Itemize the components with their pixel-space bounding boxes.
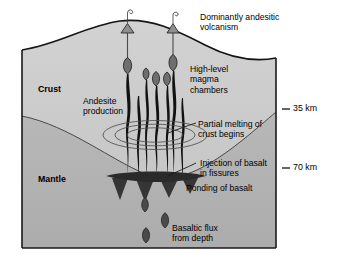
- smoke-plume-icon: [173, 12, 178, 16]
- label-partial-melting: Partial melting of crust begins: [198, 119, 310, 140]
- label-dominantly-andesitic-volcanism: Dominantly andesitic volcanism: [200, 12, 320, 33]
- figure-canvas: Dominantly andesitic volcanism High-leve…: [0, 0, 337, 265]
- depth-label-35km: 35 km: [293, 103, 317, 113]
- label-andesite-production: Andesite production: [83, 96, 153, 117]
- smoke-plume-icon: [128, 10, 133, 14]
- label-basaltic-flux: Basaltic flux from depth: [172, 223, 252, 244]
- label-ponding-of-basalt: Ponding of basalt: [186, 183, 296, 193]
- label-crust: Crust: [38, 84, 61, 94]
- depth-label-70km: 70 km: [293, 162, 317, 172]
- volcano-cone-right: [167, 12, 179, 33]
- label-mantle: Mantle: [38, 174, 66, 184]
- label-high-level-magma-chambers: High-level magma chambers: [190, 64, 270, 95]
